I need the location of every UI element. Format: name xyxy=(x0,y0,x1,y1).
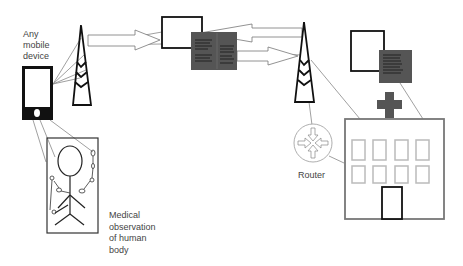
arrow-uplink-right xyxy=(237,47,298,65)
label-line: of human xyxy=(109,233,156,245)
router-label: Router xyxy=(298,170,325,181)
diagram-canvas xyxy=(0,0,463,266)
mobile-device-icon xyxy=(22,66,53,120)
hospital-building-icon xyxy=(345,119,444,219)
arrow-uplink-left xyxy=(88,30,160,50)
label-line: body xyxy=(109,245,156,257)
label-line: mobile xyxy=(23,40,50,51)
label-line: Medical xyxy=(109,210,156,222)
document-hospital-icon xyxy=(379,50,412,83)
label-line: observation xyxy=(109,222,156,234)
human-body-sensors-icon xyxy=(47,138,98,233)
mobile-device-label: Any mobile device xyxy=(23,29,50,62)
router-icon xyxy=(294,124,332,162)
document-center-icon xyxy=(191,32,237,70)
medical-observation-label: Medical observation of human body xyxy=(109,210,156,256)
label-line: device xyxy=(23,51,50,62)
medical-cross-icon xyxy=(377,92,402,118)
label-line: Any xyxy=(23,29,50,40)
